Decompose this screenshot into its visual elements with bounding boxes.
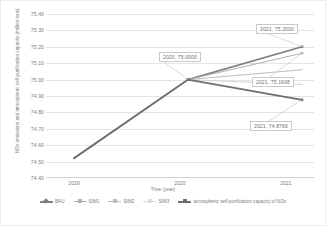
series-line	[74, 80, 302, 159]
legend-label: atmospheric self-purification capacity o…	[193, 199, 286, 204]
legend-swatch-icon	[40, 199, 53, 204]
y-tick-label: 74.80	[4, 109, 44, 115]
x-tick-label: 2021	[280, 180, 291, 186]
legend-item-sim1[interactable]: SIM1	[74, 199, 100, 204]
data-label-2020-bau: 2020, 75.0000	[159, 52, 201, 62]
data-label-2021-capacity: 2021, 74.8766	[250, 121, 292, 131]
data-label-2021-bau: 2021, 75.2000	[256, 24, 298, 34]
legend-swatch-icon	[74, 199, 87, 204]
y-axis-tick-labels: 75.40 75.30 75.20 75.10 75.00 74.90 74.8…	[0, 14, 44, 178]
legend-swatch-icon	[143, 199, 156, 204]
y-tick-label: 75.00	[4, 77, 44, 83]
y-tick-label: 75.20	[4, 44, 44, 50]
y-tick-label: 74.50	[4, 159, 44, 165]
legend-label: SIM1	[89, 199, 100, 204]
legend-label: SIM2	[123, 199, 134, 204]
data-label-2021-sim1: 2021, 75.1608	[252, 77, 294, 87]
legend-item-bau[interactable]: BAU	[40, 199, 65, 204]
x-axis-title: Time (year)	[0, 187, 326, 192]
y-tick-label: 75.30	[4, 27, 44, 33]
y-tick-label: 74.70	[4, 126, 44, 132]
chart-legend: BAU SIM1 SIM2 SIM3	[0, 199, 326, 204]
y-tick-label: 75.40	[4, 11, 44, 17]
callout-leader-line	[264, 32, 302, 47]
legend-item-sim2[interactable]: SIM2	[108, 199, 134, 204]
y-tick-label: 74.40	[4, 175, 44, 181]
series-line	[74, 47, 302, 159]
plot-area	[46, 14, 314, 178]
series-line	[74, 53, 302, 158]
callout-leader-line	[164, 62, 188, 80]
legend-label: BAU	[55, 199, 65, 204]
series-line	[74, 80, 302, 159]
y-tick-label: 74.90	[4, 93, 44, 99]
line-chart: NOx emissions and atmospheric self-purif…	[0, 0, 326, 226]
series-lines	[46, 14, 314, 178]
legend-label: SIM3	[158, 199, 169, 204]
legend-item-sim3[interactable]: SIM3	[143, 199, 169, 204]
legend-item-capacity[interactable]: atmospheric self-purification capacity o…	[178, 199, 286, 204]
legend-swatch-icon	[178, 199, 191, 204]
x-tick-label: 2019	[68, 180, 79, 186]
legend-swatch-icon	[108, 199, 121, 204]
y-tick-label: 75.10	[4, 60, 44, 66]
x-tick-label: 2020	[174, 180, 185, 186]
y-tick-label: 74.60	[4, 142, 44, 148]
